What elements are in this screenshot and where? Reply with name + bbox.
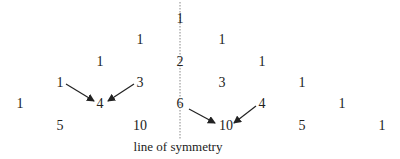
triangle-entry: 1 (219, 33, 226, 47)
triangle-entry: 1 (339, 97, 346, 111)
triangle-entry: 1 (17, 97, 24, 111)
arrow-icon (108, 84, 134, 101)
triangle-entry: 1 (259, 55, 266, 69)
triangle-entry: 1 (137, 33, 144, 47)
triangle-entry: 1 (177, 12, 184, 26)
triangle-entry: 10 (133, 119, 147, 133)
triangle-entry: 1 (299, 76, 306, 90)
triangle-entry: 4 (259, 97, 266, 111)
triangle-entry: 6 (177, 97, 184, 111)
triangle-entry: 3 (137, 76, 144, 90)
arrow-icon (234, 106, 256, 123)
triangle-entry: 1 (57, 76, 64, 90)
triangle-entry: 1 (379, 119, 386, 133)
arrow-icon (189, 109, 215, 123)
triangle-entry: 1 (97, 55, 104, 69)
triangle-entry: 10 (219, 119, 233, 133)
triangle-entry: 5 (57, 119, 64, 133)
symmetry-label: line of symmetry (134, 140, 223, 153)
pascal-triangle-diagram: 1111211331146415101051 line of symmetry (0, 0, 400, 159)
triangle-entry: 3 (219, 76, 226, 90)
triangle-entry: 4 (97, 97, 104, 111)
arrow-icon (66, 84, 94, 101)
triangle-entry: 2 (177, 55, 184, 69)
triangle-entry: 5 (299, 119, 306, 133)
